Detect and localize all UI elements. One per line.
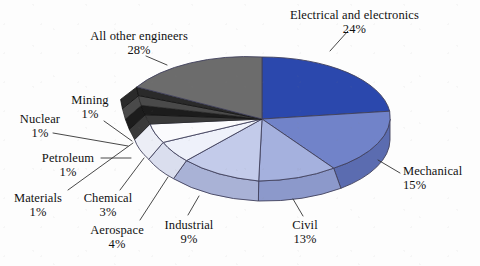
label-civil-pct: 13% bbox=[286, 233, 324, 247]
label-materials: Materials 1% bbox=[8, 192, 68, 219]
label-industrial: Industrial 9% bbox=[160, 219, 218, 246]
label-industrial-pct: 9% bbox=[160, 233, 218, 247]
label-electrical-and-electronics: Electrical and electronics 24% bbox=[290, 9, 419, 36]
label-nuclear-pct: 1% bbox=[14, 127, 66, 141]
label-chemical-name: Chemical bbox=[80, 192, 136, 206]
slice-electrical-and-electronics[interactable] bbox=[262, 57, 390, 119]
label-petroleum-pct: 1% bbox=[37, 166, 99, 180]
label-aerospace: Aerospace 4% bbox=[86, 224, 148, 251]
label-nuclear-name: Nuclear bbox=[14, 113, 66, 127]
label-electrical-name: Electrical and electronics bbox=[290, 9, 419, 23]
label-mechanical: Mechanical 15% bbox=[403, 165, 462, 192]
label-all-other-engineers: All other engineers 28% bbox=[79, 30, 199, 57]
label-all-other-name: All other engineers bbox=[79, 30, 199, 44]
pie-chart-graphic bbox=[0, 0, 480, 266]
label-materials-name: Materials bbox=[8, 192, 68, 206]
label-nuclear: Nuclear 1% bbox=[14, 113, 66, 140]
label-petroleum-name: Petroleum bbox=[37, 152, 99, 166]
leader-line-mechanical bbox=[378, 160, 400, 173]
label-aerospace-name: Aerospace bbox=[86, 224, 148, 238]
label-industrial-name: Industrial bbox=[160, 219, 218, 233]
leader-line-aerospace bbox=[140, 177, 168, 220]
pie-chart-figure: Electrical and electronics 24% Mechanica… bbox=[0, 0, 480, 266]
label-mining: Mining 1% bbox=[66, 94, 114, 121]
label-chemical: Chemical 3% bbox=[80, 192, 136, 219]
label-mechanical-pct: 15% bbox=[403, 179, 462, 193]
label-aerospace-pct: 4% bbox=[86, 238, 148, 252]
leader-line-chemical bbox=[120, 158, 144, 190]
label-materials-pct: 1% bbox=[8, 206, 68, 220]
label-civil-name: Civil bbox=[286, 219, 324, 233]
label-civil: Civil 13% bbox=[286, 219, 324, 246]
leader-line-civil bbox=[293, 199, 303, 216]
label-chemical-pct: 3% bbox=[80, 206, 136, 220]
label-mechanical-name: Mechanical bbox=[403, 165, 462, 179]
leader-line-industrial bbox=[188, 196, 199, 215]
label-all-other-pct: 28% bbox=[79, 44, 199, 58]
label-petroleum: Petroleum 1% bbox=[37, 152, 99, 179]
leader-line-all-other bbox=[146, 56, 167, 65]
label-mining-name: Mining bbox=[66, 94, 114, 108]
label-mining-pct: 1% bbox=[66, 108, 114, 122]
label-electrical-pct: 24% bbox=[290, 23, 419, 37]
